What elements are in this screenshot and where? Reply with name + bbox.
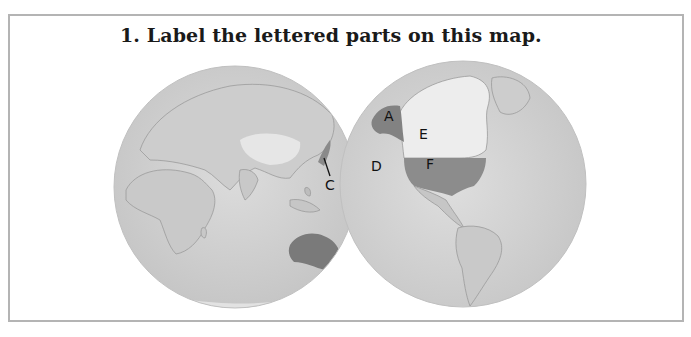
label-a: A [384,108,394,124]
world-map [0,0,691,337]
label-e: E [419,126,428,142]
western-hemisphere [340,61,586,320]
label-d: D [371,158,382,174]
label-c: C [325,177,335,193]
eastern-hemisphere [114,66,356,320]
label-f: F [426,156,434,172]
